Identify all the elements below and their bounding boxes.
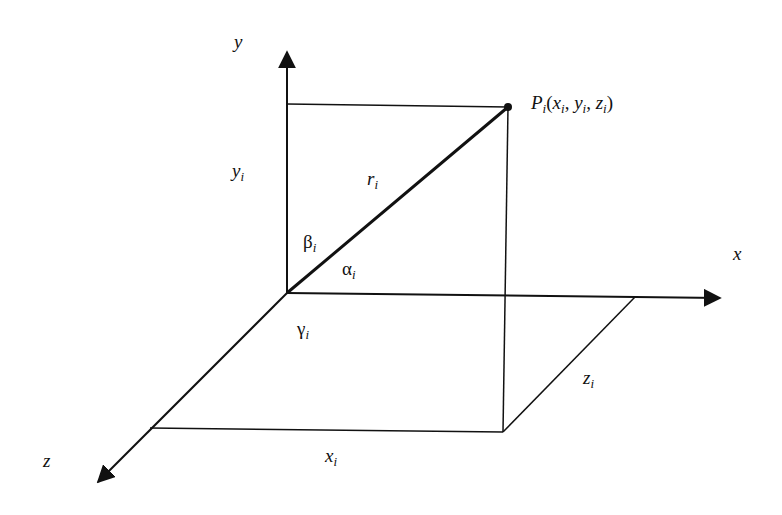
y-component-label: yi: [230, 160, 244, 184]
vertical-drop-line: [503, 107, 508, 432]
diagram-canvas: y x z Pi(xi, yi, zi) yi xi zi ri βi αi γ…: [0, 0, 782, 515]
z-axis-label: z: [42, 450, 51, 471]
point-label: Pi(xi, yi, zi): [530, 92, 613, 116]
gamma-angle-label: γi: [296, 318, 309, 342]
beta-angle-label: βi: [303, 231, 317, 255]
floor-near-edge: [150, 428, 503, 432]
x-axis-label: x: [732, 243, 742, 264]
x-component-label: xi: [324, 445, 337, 469]
radius-label: ri: [367, 168, 378, 192]
z-component-label: zi: [582, 367, 594, 391]
z-axis: [98, 293, 287, 482]
y-axis-label: y: [232, 31, 243, 52]
coordinate-diagram: y x z Pi(xi, yi, zi) yi xi zi ri βi αi γ…: [0, 0, 782, 515]
x-axis: [287, 293, 720, 298]
point-marker: [504, 103, 512, 111]
alpha-angle-label: αi: [342, 258, 356, 282]
radius-vector: [287, 107, 508, 293]
floor-right-edge: [503, 297, 635, 432]
top-projection-line: [287, 104, 508, 107]
